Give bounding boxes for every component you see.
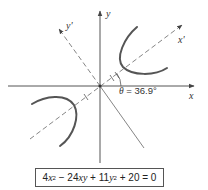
eq-op2: + [87,172,98,183]
origin-point [98,84,101,87]
x-prime-tick [84,94,88,100]
angle-label: θ = 36.9° [119,86,157,97]
equation-box: 4x2 − 24xy + 11y2 + 20 = 0 [35,168,164,187]
hyperbola-branch-lower-left [32,97,76,146]
y-prime-axis-upper [59,29,100,86]
eq-op3: + 20 = 0 [117,172,156,183]
x-axis-label: x [189,91,193,101]
eq-term2-var: xy [78,172,87,183]
x-prime-axis [30,25,182,139]
y-axis-label: y [106,9,110,19]
hyperbola-branch-upper-right [120,27,167,74]
eq-op1: − [56,172,67,183]
eq-term3-coef: 11 [99,172,109,183]
angle-equals: = [124,85,135,96]
eq-term2-coef: 24 [67,172,78,183]
x-prime-axis-label: x' [178,35,185,45]
angle-value: 36.9° [135,85,157,96]
hyperbola-rotation-diagram [0,0,208,190]
y-prime-axis-label: y' [66,21,73,31]
